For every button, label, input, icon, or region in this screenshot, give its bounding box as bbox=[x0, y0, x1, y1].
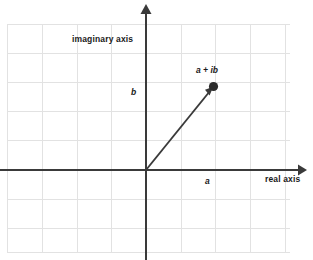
grid-lines bbox=[7, 24, 290, 253]
complex-plane-figure: imaginary axis real axis b a a + ib bbox=[0, 0, 313, 260]
vector-line bbox=[146, 91, 210, 170]
complex-number-point-label: a + ib bbox=[196, 66, 218, 75]
real-component-label: a bbox=[205, 177, 210, 186]
complex-number-vector bbox=[146, 82, 218, 170]
imaginary-axis-label: imaginary axis bbox=[72, 35, 133, 44]
plot-canvas bbox=[0, 0, 313, 260]
complex-number-point bbox=[209, 82, 218, 91]
axes bbox=[0, 4, 307, 260]
imaginary-component-label: b bbox=[131, 88, 136, 97]
imaginary-axis-arrowhead bbox=[141, 4, 152, 14]
real-axis-label: real axis bbox=[265, 175, 300, 184]
